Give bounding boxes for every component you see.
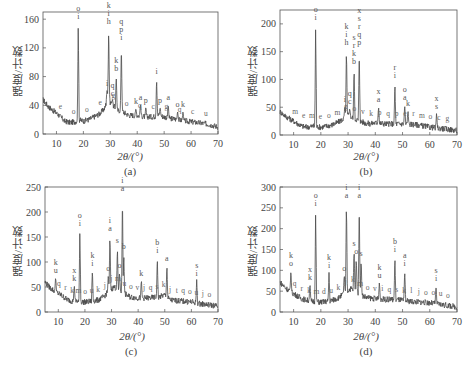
- phase-label: u: [204, 109, 208, 118]
- phase-label: v: [361, 107, 365, 116]
- y-tick-label: 50: [31, 282, 41, 293]
- x-tick-label: 40: [132, 138, 142, 149]
- phase-label: s: [156, 282, 159, 291]
- peak-label: s: [360, 249, 363, 258]
- y-tick-label: 120: [24, 42, 39, 53]
- phase-label: l: [410, 286, 412, 295]
- y-tick-label: 150: [261, 46, 276, 57]
- xrd-trace: [280, 212, 457, 310]
- phase-label: e: [59, 102, 63, 111]
- phase-label: m: [314, 287, 320, 296]
- phase-label: o: [424, 288, 428, 297]
- peak-label: k: [308, 273, 312, 282]
- x-tick-label: 40: [370, 139, 380, 150]
- peak-label: c: [348, 97, 352, 106]
- peak-label: o: [106, 264, 110, 273]
- x-axis-label: 2θ/(°): [80, 150, 180, 162]
- phase-label: k: [351, 275, 355, 284]
- x-axis-label: 2θ/(°): [316, 330, 416, 342]
- phase-label: j: [168, 285, 171, 294]
- peak-label: i: [91, 259, 94, 268]
- phase-label: j: [103, 281, 106, 290]
- x-tick-label: 40: [133, 316, 143, 327]
- peak-label: k: [139, 269, 143, 278]
- x-tick-label: 30: [107, 316, 117, 327]
- peak-label: a: [121, 184, 125, 193]
- x-axis-label: 2θ/(°): [316, 150, 416, 162]
- x-tick-label: 50: [159, 138, 169, 149]
- phase-label: o: [83, 287, 87, 296]
- y-tick-label: 250: [261, 202, 276, 213]
- peak-label: a: [345, 191, 349, 200]
- peak-label: a: [166, 93, 170, 102]
- x-tick-label: 20: [316, 316, 326, 327]
- phase-label: k: [70, 286, 74, 295]
- phase-label: r: [64, 283, 67, 292]
- x-tick-label: 60: [186, 138, 196, 149]
- phase-label: c: [191, 107, 195, 116]
- phase-label: r: [412, 109, 415, 118]
- x-tick-label: 20: [78, 138, 88, 149]
- peak-label: o: [354, 247, 358, 256]
- y-tick-label: 50: [266, 102, 276, 113]
- y-tick-label: 0: [271, 307, 276, 318]
- peak-label: k: [181, 100, 185, 109]
- phase-label: o: [429, 112, 433, 121]
- y-tick-label: 300: [261, 182, 276, 193]
- x-tick-label: 20: [80, 316, 90, 327]
- phase-label: u: [122, 279, 126, 288]
- phase-label: e: [98, 98, 102, 107]
- x-tick-label: 50: [398, 316, 408, 327]
- phase-label: c: [437, 113, 441, 122]
- peak-label: i: [315, 13, 318, 22]
- phase-label: u: [439, 289, 443, 298]
- phase-label: u: [329, 286, 333, 295]
- peak-label: u: [54, 266, 58, 275]
- phase-label: k: [336, 283, 340, 292]
- phase-label: k: [307, 286, 311, 295]
- phase-label: j: [109, 274, 112, 283]
- phase-label: o: [366, 283, 370, 292]
- phase-label: o: [125, 99, 129, 108]
- panel-caption: (a): [115, 165, 145, 177]
- peak-label: i: [120, 33, 123, 42]
- peak-label: i: [106, 79, 109, 88]
- peak-label: i: [79, 219, 82, 228]
- peak-label: i: [404, 259, 407, 268]
- x-tick-label: 30: [343, 139, 353, 150]
- x-tick-label: 70: [452, 316, 462, 327]
- phase-label: m: [115, 274, 121, 283]
- phase-label: k: [162, 280, 166, 289]
- peak-label: b: [352, 57, 356, 66]
- y-tick-label: 0: [34, 129, 39, 140]
- x-tick-label: 10: [289, 316, 299, 327]
- peak-label: i: [315, 199, 318, 208]
- y-tick-label: 80: [29, 71, 39, 82]
- phase-label: g: [344, 102, 348, 111]
- peak-label: i: [196, 269, 199, 278]
- peak-label: s: [116, 236, 119, 245]
- phase-label: q: [138, 101, 142, 110]
- y-tick-label: 0: [36, 307, 41, 318]
- phase-label: q: [293, 279, 297, 288]
- y-tick-label: 200: [26, 207, 41, 218]
- phase-label: m: [76, 286, 82, 295]
- y-tick-label: 150: [261, 244, 276, 255]
- peak-label: p: [144, 96, 148, 105]
- x-tick-label: 70: [213, 138, 223, 149]
- phase-label: o: [72, 107, 76, 116]
- phase-label: r: [301, 284, 304, 293]
- phase-label: m: [357, 279, 363, 288]
- panel-c: 强度/计数 10203040506070050100150200250oiias…: [0, 180, 235, 365]
- phase-label: e: [319, 112, 323, 121]
- peak-label: a: [377, 95, 381, 104]
- x-tick-label: 20: [316, 139, 326, 150]
- x-tick-label: 70: [452, 139, 462, 150]
- panel-caption: (c): [116, 345, 146, 357]
- peak-label: i: [435, 274, 438, 283]
- phase-label: m: [419, 111, 425, 120]
- x-tick-label: 60: [425, 139, 435, 150]
- peak-label: o: [289, 259, 293, 268]
- phase-label: k: [96, 285, 100, 294]
- phase-label: e: [403, 109, 407, 118]
